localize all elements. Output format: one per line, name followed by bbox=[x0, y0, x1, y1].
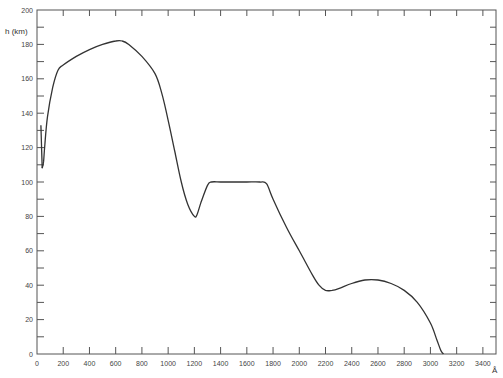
x-axis-tick-labels: 0200400600800100012001400160018002000220… bbox=[35, 360, 491, 367]
y-axis-tick-labels: 020406080100120140160180200 bbox=[21, 7, 33, 358]
x-tick-label: 3200 bbox=[449, 360, 465, 367]
x-tick-label: 2600 bbox=[370, 360, 386, 367]
chart: 0200400600800100012001400160018002000220… bbox=[0, 0, 503, 378]
y-axis-title: h (km) bbox=[5, 27, 28, 36]
x-tick-label: 2800 bbox=[396, 360, 412, 367]
x-tick-label: 2200 bbox=[318, 360, 334, 367]
x-tick-label: 1600 bbox=[239, 360, 255, 367]
plot-frame bbox=[37, 10, 496, 354]
x-tick-label: 2400 bbox=[344, 360, 360, 367]
y-tick-label: 200 bbox=[21, 7, 33, 14]
x-tick-label: 0 bbox=[35, 360, 39, 367]
x-tick-label: 1000 bbox=[160, 360, 176, 367]
y-tick-label: 160 bbox=[21, 75, 33, 82]
x-tick-label: 2000 bbox=[291, 360, 307, 367]
y-tick-label: 80 bbox=[25, 213, 33, 220]
x-axis-ticks bbox=[63, 10, 483, 354]
y-tick-label: 120 bbox=[21, 144, 33, 151]
x-axis-title: Å bbox=[492, 366, 498, 375]
x-tick-label: 1200 bbox=[187, 360, 203, 367]
height-curve-spike bbox=[41, 125, 42, 168]
y-tick-label: 20 bbox=[25, 316, 33, 323]
y-tick-label: 60 bbox=[25, 247, 33, 254]
x-tick-label: 3000 bbox=[423, 360, 439, 367]
x-tick-label: 1800 bbox=[265, 360, 281, 367]
y-tick-label: 40 bbox=[25, 282, 33, 289]
x-tick-label: 200 bbox=[57, 360, 69, 367]
y-tick-label: 100 bbox=[21, 179, 33, 186]
y-tick-label: 0 bbox=[29, 351, 33, 358]
x-tick-label: 1400 bbox=[213, 360, 229, 367]
x-tick-label: 600 bbox=[110, 360, 122, 367]
x-tick-label: 800 bbox=[136, 360, 148, 367]
x-tick-label: 400 bbox=[84, 360, 96, 367]
y-tick-label: 180 bbox=[21, 41, 33, 48]
x-tick-label: 3400 bbox=[475, 360, 491, 367]
y-tick-label: 140 bbox=[21, 110, 33, 117]
height-curve bbox=[42, 41, 443, 354]
y-axis-ticks bbox=[37, 27, 496, 337]
